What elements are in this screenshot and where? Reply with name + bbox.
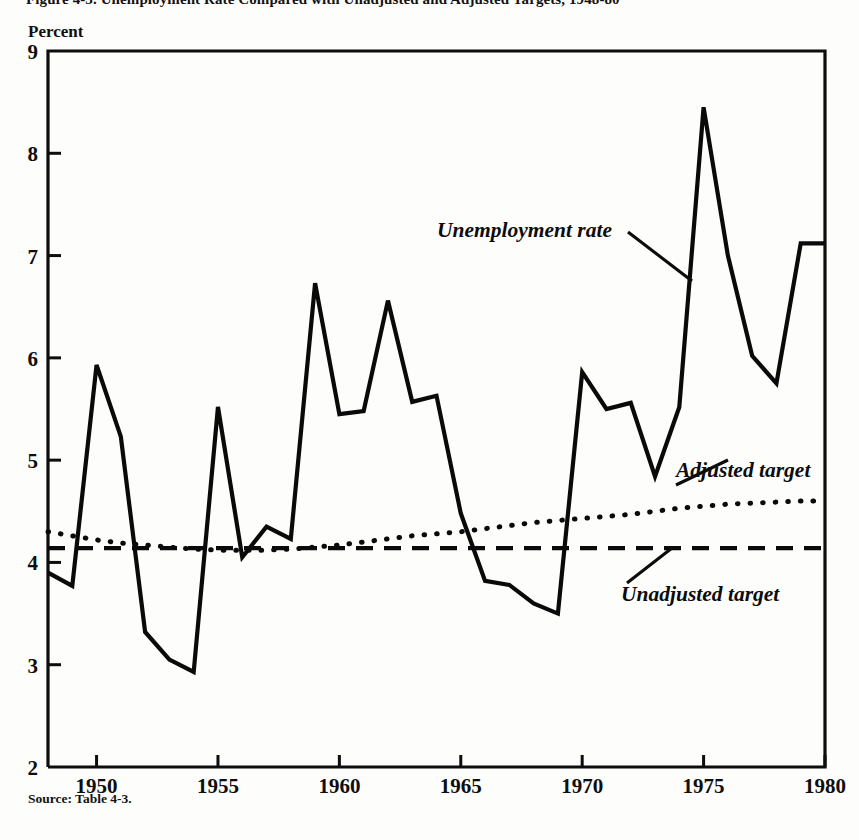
- y-tick-label: 8: [28, 142, 39, 166]
- x-axis-ticks: 1950195519601965197019751980: [76, 755, 846, 798]
- line-chart: 98765432 1950195519601965197019751980 Un…: [0, 0, 859, 840]
- annotation-unemployment-rate: Unemployment rate: [437, 218, 612, 242]
- y-axis-ticks: 98765432: [28, 40, 62, 780]
- source-note: Source: Table 4-3.: [28, 791, 132, 807]
- y-tick-label: 9: [28, 40, 39, 64]
- y-tick-label: 4: [28, 551, 39, 575]
- axis-frame: [48, 51, 825, 767]
- leader-unadjusted-target: [627, 548, 672, 583]
- y-tick-label: 5: [28, 449, 39, 473]
- figure-container: Figure 4-3. Unemployment Rate Compared w…: [0, 0, 859, 840]
- y-tick-label: 7: [28, 245, 39, 269]
- y-tick-label: 2: [28, 756, 39, 780]
- x-tick-label: 1980: [804, 774, 846, 798]
- y-tick-label: 3: [28, 654, 39, 678]
- x-tick-label: 1975: [683, 774, 725, 798]
- x-tick-label: 1965: [440, 774, 482, 798]
- x-tick-label: 1955: [197, 774, 239, 798]
- x-tick-label: 1960: [318, 774, 360, 798]
- series-line-dotted: [48, 501, 825, 550]
- x-tick-label: 1970: [561, 774, 603, 798]
- annotation-unadjusted-target: Unadjusted target: [621, 582, 780, 606]
- annotation-adjusted-target: Adjusted target: [674, 458, 811, 482]
- y-tick-label: 6: [28, 347, 39, 371]
- leader-unemployment-rate: [628, 232, 692, 281]
